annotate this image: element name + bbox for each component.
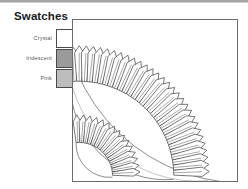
window-top-strip-highlight — [0, 2, 248, 3]
swatch-label-iridescent: Iridescent — [26, 55, 56, 61]
radial-petal-fan-diagram — [73, 20, 237, 181]
swatch-row-crystal[interactable]: Crystal — [0, 28, 80, 48]
swatch-label-crystal: Crystal — [33, 35, 56, 41]
swatch-row-pink[interactable]: Pink — [0, 68, 80, 88]
petal-layer — [73, 46, 209, 177]
swatch-list: Crystal Iridescent Pink — [0, 28, 80, 88]
swatches-title: Swatches — [0, 10, 80, 22]
illustration-panel — [72, 19, 238, 182]
swatch-label-pink: Pink — [41, 75, 57, 81]
swatch-row-iridescent[interactable]: Iridescent — [0, 48, 80, 68]
swatches-panel: Swatches Crystal Iridescent Pink — [0, 10, 80, 88]
